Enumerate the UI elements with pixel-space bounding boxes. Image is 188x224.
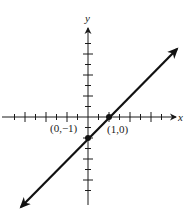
line-graph: x y (0,−1) (1,0) <box>0 0 188 224</box>
x-axis-label: x <box>177 111 183 123</box>
point-b-label: (1,0) <box>107 123 128 136</box>
line-series <box>21 49 177 207</box>
y-axis: y <box>83 12 93 205</box>
y-axis-label: y <box>84 12 90 24</box>
x-axis: x <box>2 111 183 123</box>
point-a-label: (0,−1) <box>50 122 78 135</box>
